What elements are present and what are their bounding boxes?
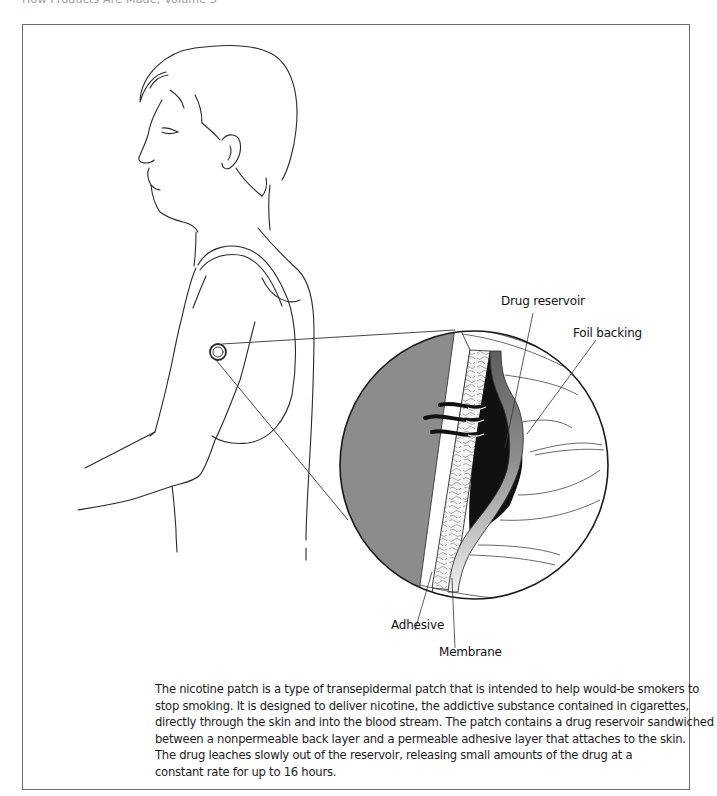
caption-line: constant rate for up to 16 hours.	[155, 764, 695, 781]
label-adhesive: Adhesive	[391, 618, 444, 632]
label-foil-backing: Foil backing	[573, 326, 642, 340]
magnifier-circle-icon	[330, 320, 608, 604]
caption-line: directly through the skin and into the b…	[155, 714, 695, 731]
person-profile-illustration	[78, 45, 314, 560]
patch-illustration	[0, 0, 717, 796]
label-drug-reservoir: Drug reservoir	[501, 294, 585, 308]
caption-line: The nicotine patch is a type of transepi…	[155, 681, 695, 698]
figure-caption: The nicotine patch is a type of transepi…	[155, 681, 695, 781]
caption-line: stop smoking. It is designed to deliver …	[155, 698, 695, 715]
caption-line: The drug leaches slowly out of the reser…	[155, 747, 695, 764]
label-membrane: Membrane	[439, 645, 502, 659]
caption-line: between a nonpermeable back layer and a …	[155, 731, 695, 748]
